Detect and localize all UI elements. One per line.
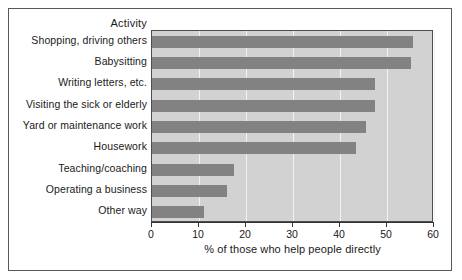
bar xyxy=(152,78,375,90)
category-tick-label: Visiting the sick or elderly xyxy=(14,98,147,110)
bar xyxy=(152,121,366,133)
x-axis-tick-label: 0 xyxy=(148,228,154,240)
x-axis-tick xyxy=(198,222,199,227)
x-axis-tick-label: 60 xyxy=(427,228,439,240)
x-axis-tick xyxy=(386,222,387,227)
x-axis-tick-label: 30 xyxy=(286,228,298,240)
category-tick-label: Teaching/coaching xyxy=(14,162,147,174)
x-axis-title: % of those who help people directly xyxy=(151,243,434,255)
x-axis-tick xyxy=(151,222,152,227)
category-tick-label: Other way xyxy=(14,204,147,216)
gridline xyxy=(434,31,435,221)
x-axis-tick-label: 40 xyxy=(333,228,345,240)
bar xyxy=(152,142,356,154)
bar xyxy=(152,100,375,112)
plot-area xyxy=(151,30,433,222)
bar xyxy=(152,57,411,69)
bar xyxy=(152,185,227,197)
category-tick-label: Operating a business xyxy=(14,183,147,195)
x-axis-tick xyxy=(433,222,434,227)
x-axis-tick-label: 20 xyxy=(239,228,251,240)
bar xyxy=(152,206,204,218)
category-axis-header: Activity xyxy=(20,17,147,29)
x-axis-tick xyxy=(292,222,293,227)
x-axis-tick xyxy=(339,222,340,227)
bar-chart-figure: Activity Shopping, driving othersBabysit… xyxy=(0,0,462,280)
category-tick-label: Babysitting xyxy=(14,55,147,67)
category-tick-label: Housework xyxy=(14,140,147,152)
category-tick-label: Yard or maintenance work xyxy=(14,119,147,131)
x-axis-tick xyxy=(245,222,246,227)
x-axis-tick-label: 10 xyxy=(192,228,204,240)
x-axis-tick-label: 50 xyxy=(380,228,392,240)
category-tick-label: Writing letters, etc. xyxy=(14,76,147,88)
category-tick-label: Shopping, driving others xyxy=(14,34,147,46)
bar xyxy=(152,36,413,48)
bar xyxy=(152,164,234,176)
